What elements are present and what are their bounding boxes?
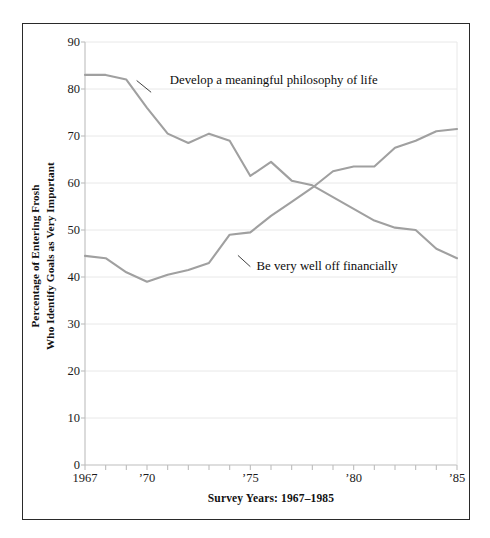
x-axis-tick-label: ’70 xyxy=(139,471,156,486)
x-axis-tick-label: ’75 xyxy=(242,471,259,486)
chart-figure: Percentage of Entering Frosh Who Identif… xyxy=(0,0,490,538)
axis-lines xyxy=(85,42,457,465)
leader-line xyxy=(238,255,250,266)
philosophy-label: Develop a meaningful philosophy of life xyxy=(170,73,378,88)
financial-label: Be very well off financially xyxy=(257,259,398,274)
data-series xyxy=(85,75,457,282)
x-axis-tick-label: ’80 xyxy=(345,471,362,486)
x-axis-ticks xyxy=(85,465,457,470)
gridlines xyxy=(81,42,457,465)
x-axis-tick-label: 1967 xyxy=(73,471,98,486)
x-axis-title: Survey Years: 1967–1985 xyxy=(85,492,457,504)
annotation-leader-lines xyxy=(137,81,251,267)
x-axis-tick-label: ’85 xyxy=(449,471,466,486)
leader-line xyxy=(137,81,151,93)
series-line-1 xyxy=(85,75,457,258)
